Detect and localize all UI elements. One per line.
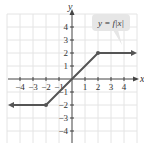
y-tick-label: 2 bbox=[64, 48, 69, 58]
y-tick-label: 1 bbox=[64, 61, 69, 71]
x-tick-label: 3 bbox=[109, 82, 114, 92]
x-tick-label: −4 bbox=[15, 82, 25, 92]
callout-label: y = f|x| bbox=[97, 18, 124, 28]
y-tick-label: 4 bbox=[64, 22, 69, 32]
left-arrow-icon bbox=[8, 102, 14, 108]
x-axis-arrow-icon bbox=[133, 77, 139, 82]
x-tick-labels: −4 −3 −2 −1 1 2 3 4 bbox=[15, 82, 127, 92]
x-tick-label: 4 bbox=[122, 82, 127, 92]
right-arrow-icon bbox=[131, 50, 137, 56]
x-axis-label: x bbox=[139, 73, 144, 84]
y-tick-label: 3 bbox=[64, 35, 69, 45]
y-tick-label: −4 bbox=[58, 126, 68, 136]
y-axis-label: y bbox=[67, 1, 73, 12]
function-graph: −4 −3 −2 −1 1 2 3 4 4 3 2 1 −1 −2 −3 −4 … bbox=[0, 0, 144, 143]
y-tick-label: −3 bbox=[58, 113, 68, 123]
x-tick-label: −2 bbox=[41, 82, 51, 92]
x-tick-label: −3 bbox=[28, 82, 38, 92]
point-marker bbox=[96, 51, 100, 55]
y-tick-label: −2 bbox=[58, 100, 68, 110]
x-tick-label: 1 bbox=[83, 82, 88, 92]
x-tick-label: 2 bbox=[96, 82, 101, 92]
point-marker bbox=[44, 103, 48, 107]
